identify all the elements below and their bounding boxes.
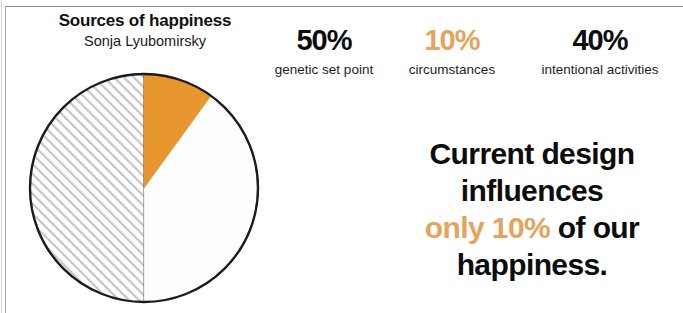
stat-value-intentional-activities: 40% bbox=[520, 26, 680, 55]
headline-accent-only-10-percent: only 10% bbox=[425, 211, 550, 244]
chart-author: Sonja Lyubomirsky bbox=[16, 32, 274, 50]
stat-label-genetic-set-point: genetic set point bbox=[264, 62, 384, 78]
infographic-slide: Sources of happiness Sonja Lyubomirsky 5… bbox=[0, 0, 683, 313]
headline: Current design influences only 10% of ou… bbox=[384, 136, 680, 284]
headline-line-1: Current design bbox=[384, 136, 680, 173]
headline-line-4: happiness. bbox=[384, 247, 680, 284]
stat-value-genetic-set-point: 50% bbox=[264, 26, 384, 55]
stat-label-intentional-activities: intentional activities bbox=[520, 62, 680, 78]
scan-frame-outer-edge bbox=[1, 0, 2, 313]
scan-frame-top-border bbox=[5, 6, 683, 7]
headline-line-2: influences bbox=[384, 173, 680, 210]
stat-circumstances: 10% circumstances bbox=[392, 26, 512, 78]
pie-slice-genetic-set-point bbox=[30, 74, 144, 302]
stat-intentional-activities: 40% intentional activities bbox=[520, 26, 680, 78]
stat-value-circumstances: 10% bbox=[392, 26, 512, 55]
stat-genetic-set-point: 50% genetic set point bbox=[264, 26, 384, 78]
scan-frame-left-border bbox=[5, 6, 6, 313]
stat-label-circumstances: circumstances bbox=[392, 62, 512, 78]
headline-line-3-rest: of our bbox=[550, 211, 639, 244]
headline-line-3: only 10% of our bbox=[384, 210, 680, 247]
pie-chart bbox=[22, 66, 266, 310]
chart-title: Sources of happiness bbox=[16, 12, 274, 31]
pie-chart-svg bbox=[22, 66, 266, 310]
chart-title-block: Sources of happiness Sonja Lyubomirsky bbox=[16, 12, 274, 50]
